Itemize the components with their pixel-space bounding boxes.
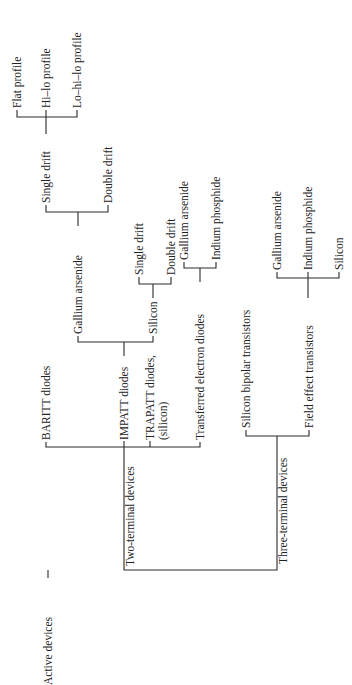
bracket-ted (184, 262, 216, 268)
label-gaas-single-drift: Single drift (40, 150, 53, 203)
label-active-devices: Active devices (42, 616, 54, 685)
label-trapatt: TRAPATT diodes, (144, 355, 157, 440)
label-bjt: Silicon bipolar transistors (240, 309, 253, 428)
label-impatt-gaas: Gallium arsenide (72, 255, 84, 334)
label-trapatt-silicon: (silicon) (157, 402, 170, 440)
label-baritt: BARITT diodes (40, 365, 52, 440)
label-hilo-profile: Hi–lo profile (40, 48, 53, 108)
node-active-devices: Active devices (42, 570, 54, 685)
label-impatt-silicon: Silicon (147, 301, 159, 334)
label-fet: Field effect transistors (303, 325, 315, 428)
label-three-terminal: Three-terminal devices (277, 457, 289, 564)
node-impatt-silicon: Silicon (139, 277, 171, 334)
node-two-terminal: Two-terminal devices (46, 441, 200, 566)
label-ted-gaas: Gallium arsenide (178, 181, 190, 260)
label-fet-inp: Indium phosphide (302, 187, 315, 270)
label-flat-profile: Flat profile (11, 57, 24, 108)
bracket-impatt (78, 336, 153, 342)
label-silicon-single-drift: Single drift (133, 222, 146, 275)
bracket-two-terminal (46, 442, 200, 447)
device-tree-diagram: Active devices Two-terminal devices BARI… (0, 0, 352, 685)
label-lohilo-profile: Lo–hi–lo profile (71, 32, 84, 108)
label-silicon-double-drift: Double drift (165, 218, 177, 275)
node-impatt: IMPATT diodes (78, 336, 153, 440)
label-ted-inp: Indium phosphide (210, 177, 223, 260)
label-impatt: IMPATT diodes (118, 366, 130, 440)
node-ted: Transferred electron diodes (184, 262, 216, 440)
label-fet-gaas: Gallium arsenide (271, 191, 283, 270)
label-two-terminal: Two-terminal devices (124, 466, 136, 566)
label-fet-si: Silicon (333, 237, 345, 270)
node-impatt-gaas: Gallium arsenide (46, 205, 108, 334)
node-gaas-single-drift: Single drift (17, 110, 77, 203)
node-fet: Field effect transistors (277, 272, 339, 428)
bracket-profiles (17, 110, 77, 117)
label-gaas-double-drift: Double drift (102, 146, 114, 203)
bracket-root (124, 436, 277, 570)
bracket-three-terminal (246, 430, 309, 436)
bracket-gaas-drift (46, 205, 108, 212)
bracket-silicon-drift (139, 277, 171, 284)
label-ted: Transferred electron diodes (194, 313, 206, 440)
